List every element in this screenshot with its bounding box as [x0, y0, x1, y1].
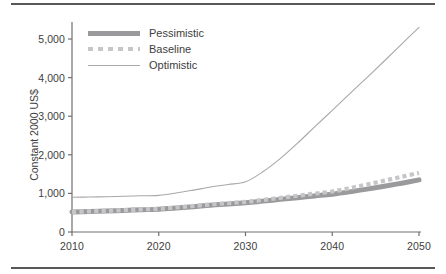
legend-label-optimistic: Optimistic: [149, 59, 197, 71]
dotted-line-key-icon: [88, 43, 140, 55]
y-tick-label: 4,000: [38, 72, 65, 84]
legend-label-pessimistic: Pessimistic: [149, 27, 204, 39]
legend-label-baseline: Baseline: [149, 43, 191, 55]
x-tick-label: 2050: [407, 240, 431, 252]
y-tick-label: 2,000: [38, 149, 65, 161]
chart-legend: Pessimistic Baseline Optimistic: [88, 25, 204, 73]
y-tick-label: 1,000: [38, 187, 65, 199]
x-tick-label: 2010: [60, 240, 84, 252]
y-tick-label: 3,000: [38, 110, 65, 122]
figure-container: Constant 2000 US$ 01,0002,0003,0004,0005…: [0, 0, 446, 274]
y-tick-label: 0: [59, 226, 65, 238]
x-tick-label: 2020: [147, 240, 171, 252]
legend-item-baseline: Baseline: [88, 41, 204, 57]
series-line-baseline: [72, 173, 419, 212]
x-tick-label: 2040: [320, 240, 344, 252]
x-tick-label: 2030: [234, 240, 258, 252]
plot-area: [0, 0, 446, 274]
y-tick-label: 5,000: [38, 33, 65, 45]
legend-item-pessimistic: Pessimistic: [88, 25, 204, 41]
legend-item-optimistic: Optimistic: [88, 57, 204, 73]
x-axis-ticks: [72, 232, 419, 236]
thick-line-key-icon: [88, 27, 140, 39]
thin-line-key-icon: [88, 59, 140, 71]
